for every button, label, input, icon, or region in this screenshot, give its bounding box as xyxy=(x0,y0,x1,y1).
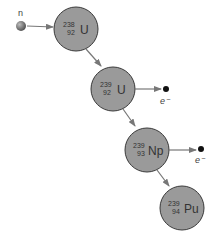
element-symbol: U xyxy=(117,83,126,97)
atomic-number: 92 xyxy=(67,29,75,36)
neutron: n xyxy=(16,8,26,31)
arrow-np239-to-pu239 xyxy=(157,170,169,186)
electron-icon xyxy=(198,146,204,152)
arrow-u239-to-np239 xyxy=(123,109,135,126)
mass-number: 239 xyxy=(168,200,180,207)
mass-number: 238 xyxy=(63,21,75,28)
neutron-label: n xyxy=(18,8,23,18)
nucleus-circle xyxy=(54,7,98,51)
nucleus-circle xyxy=(91,67,135,111)
electron-icon xyxy=(163,86,169,92)
neutron-icon xyxy=(16,21,26,31)
arrow-neutron-to-u238 xyxy=(27,26,53,27)
electron-label: e⁻ xyxy=(160,96,171,106)
nucleus-pu239: 239 94 Pu xyxy=(160,186,204,230)
nucleus-np239: 239 93 Np xyxy=(125,128,169,172)
atomic-number: 94 xyxy=(172,208,180,215)
atomic-number: 93 xyxy=(137,150,145,157)
nucleus-u239: 239 92 U xyxy=(91,67,135,111)
decay-diagram: n 238 92 U 239 92 U e⁻ 239 93 Np e⁻ 239 … xyxy=(0,0,217,240)
electron-1: e⁻ xyxy=(160,86,171,106)
nucleus-u238: 238 92 U xyxy=(54,7,98,51)
element-symbol: U xyxy=(80,23,89,37)
element-symbol: Pu xyxy=(184,202,199,216)
element-symbol: Np xyxy=(148,144,164,158)
arrow-u238-to-u239 xyxy=(86,49,101,66)
electron-2: e⁻ xyxy=(195,146,206,165)
mass-number: 239 xyxy=(133,142,145,149)
mass-number: 239 xyxy=(100,81,112,88)
atomic-number: 92 xyxy=(103,89,111,96)
electron-label: e⁻ xyxy=(195,155,206,165)
